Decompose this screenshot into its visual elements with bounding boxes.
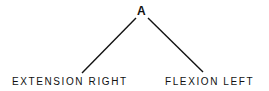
child-node-flexion-left: FLEXION LEFT [165, 76, 254, 87]
edge-root-to-flexion-left [148, 18, 203, 72]
root-node-label: A [137, 4, 146, 18]
edge-root-to-extension-right [82, 18, 136, 73]
child-node-extension-right: EXTENSION RIGHT [12, 76, 128, 87]
